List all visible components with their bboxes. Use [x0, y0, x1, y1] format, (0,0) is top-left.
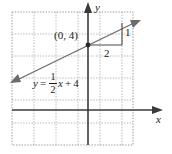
slope-rise-label: 1 — [125, 27, 131, 38]
y-intercept-point — [86, 43, 91, 48]
intercept-point-label: (0, 4) — [54, 30, 78, 41]
fraction-numerator: 1 — [50, 72, 57, 82]
line-equation-label: y = 1 2 x + 4 — [33, 72, 79, 95]
slope-run-label: 2 — [104, 48, 110, 59]
equation-plus: + — [65, 78, 71, 89]
equation-lhs: y — [33, 78, 38, 89]
graph-figure: y x (0, 4) 1 2 y = 1 2 x + 4 — [0, 0, 172, 154]
fraction-denominator: 2 — [50, 85, 57, 95]
axis-label-x: x — [156, 114, 161, 125]
graph-canvas — [0, 0, 172, 154]
equation-equals: = — [40, 78, 46, 89]
y-axis — [84, 2, 92, 145]
equation-variable: x — [58, 78, 63, 89]
equation-fraction: 1 2 — [49, 72, 57, 95]
axis-label-y: y — [95, 2, 100, 13]
equation-constant: 4 — [73, 78, 79, 89]
